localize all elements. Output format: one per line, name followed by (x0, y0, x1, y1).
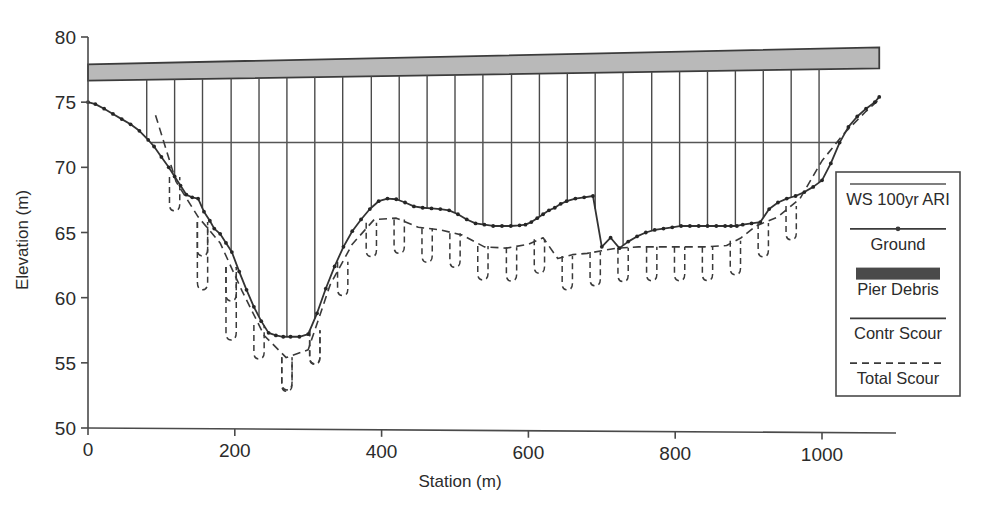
y-tick-label: 50 (55, 418, 76, 439)
legend-item-label: WS 100yr ARI (846, 190, 950, 208)
legend-swatch-pier-debris (856, 268, 940, 280)
y-tick-label: 75 (55, 92, 76, 113)
legend-item-label: Total Scour (857, 369, 940, 387)
y-tick-label: 55 (55, 353, 76, 374)
y-tick-label: 80 (55, 27, 76, 48)
x-axis-title: Station (m) (418, 472, 501, 491)
x-tick-label: 200 (219, 440, 251, 461)
x-tick-label: 800 (659, 443, 691, 464)
legend-item-label: Pier Debris (857, 280, 939, 298)
legend-item-label: Ground (870, 235, 925, 253)
x-tick-label: 1000 (801, 444, 843, 465)
cross-section-chart: 5055606570758002004006008001000 Elevatio… (0, 0, 998, 509)
y-tick-label: 65 (55, 223, 76, 244)
x-tick-label: 600 (513, 442, 545, 463)
legend-marker-dot (896, 226, 901, 231)
y-tick-label: 60 (55, 288, 76, 309)
x-tick-label: 400 (366, 441, 398, 462)
chart-figure: 5055606570758002004006008001000 Elevatio… (0, 0, 998, 509)
y-axis-title: Elevation (m) (13, 190, 32, 290)
x-tick-label: 0 (83, 439, 94, 460)
y-tick-label: 70 (55, 157, 76, 178)
legend-item[interactable]: Pier Debris (856, 268, 940, 298)
legend: WS 100yr ARIGroundPier DebrisContr Scour… (836, 172, 960, 396)
legend-item-label: Contr Scour (854, 324, 943, 342)
